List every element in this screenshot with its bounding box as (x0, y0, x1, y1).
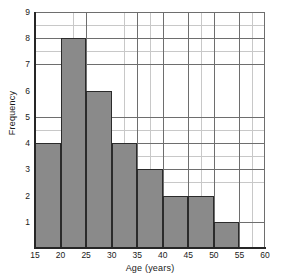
x-tick-label: 35 (132, 250, 141, 260)
histogram-bar (61, 38, 87, 248)
bars-layer (35, 12, 265, 248)
y-tick-label: 8 (20, 33, 30, 43)
histogram-bar (163, 196, 189, 248)
x-axis-line (34, 247, 266, 249)
x-tick-label: 55 (235, 250, 244, 260)
x-tick-label: 15 (30, 250, 39, 260)
histogram-bar (188, 196, 214, 248)
histogram-bar (137, 169, 163, 248)
y-tick-label: 5 (20, 112, 30, 122)
x-tick-label: 20 (56, 250, 65, 260)
histogram-bar (86, 91, 112, 248)
x-tick-label: 60 (260, 250, 269, 260)
histogram-bar (35, 143, 61, 248)
x-tick-label: 30 (107, 250, 116, 260)
x-tick-label: 50 (209, 250, 218, 260)
x-tick-label: 25 (81, 250, 90, 260)
x-axis-title: Age (years) (35, 263, 265, 273)
y-tick-label: 2 (20, 191, 30, 201)
x-tick-label: 40 (158, 250, 167, 260)
y-axis-title: Frequency (7, 73, 17, 153)
y-tick-label: 1 (20, 217, 30, 227)
y-axis-line (34, 12, 36, 249)
y-tick-label: 9 (20, 7, 30, 17)
histogram-bar (112, 143, 138, 248)
y-tick-label: 6 (20, 86, 30, 96)
x-tick-label: 45 (184, 250, 193, 260)
y-tick-label: 7 (20, 59, 30, 69)
y-tick-label: 3 (20, 164, 30, 174)
histogram-bar (214, 222, 240, 248)
histogram-chart: Frequency 15202530354045505560 123456789… (0, 0, 281, 280)
y-tick-label: 4 (20, 138, 30, 148)
